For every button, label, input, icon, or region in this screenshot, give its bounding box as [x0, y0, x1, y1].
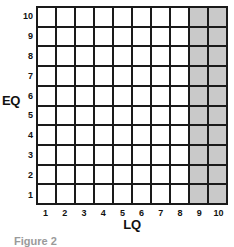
matrix-cell[interactable] [152, 67, 171, 85]
matrix-cell[interactable] [171, 185, 190, 203]
matrix-cell[interactable] [38, 87, 57, 105]
matrix-cell[interactable] [95, 47, 114, 65]
matrix-cell[interactable] [38, 166, 57, 184]
matrix-cell[interactable] [57, 126, 76, 144]
matrix-cell-shaded[interactable] [190, 67, 209, 85]
matrix-cell-shaded[interactable] [190, 8, 209, 26]
matrix-cell[interactable] [76, 146, 95, 164]
matrix-cell[interactable] [114, 8, 133, 26]
matrix-cell[interactable] [152, 146, 171, 164]
matrix-cell[interactable] [38, 185, 57, 203]
matrix-cell[interactable] [133, 67, 152, 85]
matrix-cell-shaded[interactable] [209, 146, 226, 164]
matrix-cell[interactable] [152, 28, 171, 46]
matrix-cell[interactable] [152, 107, 171, 125]
matrix-cell[interactable] [152, 185, 171, 203]
matrix-cell[interactable] [114, 47, 133, 65]
matrix-cell[interactable] [114, 28, 133, 46]
matrix-cell-shaded[interactable] [209, 87, 226, 105]
matrix-cell[interactable] [76, 87, 95, 105]
matrix-cell[interactable] [152, 47, 171, 65]
matrix-cell-shaded[interactable] [209, 8, 226, 26]
matrix-cell[interactable] [171, 28, 190, 46]
matrix-cell[interactable] [171, 47, 190, 65]
matrix-cell[interactable] [57, 47, 76, 65]
matrix-cell[interactable] [76, 107, 95, 125]
matrix-cell[interactable] [95, 185, 114, 203]
matrix-cell[interactable] [57, 185, 76, 203]
matrix-cell[interactable] [95, 87, 114, 105]
matrix-cell-shaded[interactable] [190, 47, 209, 65]
matrix-cell[interactable] [76, 67, 95, 85]
matrix-cell[interactable] [57, 146, 76, 164]
matrix-cell[interactable] [133, 126, 152, 144]
matrix-cell[interactable] [152, 8, 171, 26]
matrix-cell[interactable] [171, 107, 190, 125]
matrix-cell-shaded[interactable] [190, 126, 209, 144]
matrix-cell[interactable] [133, 107, 152, 125]
matrix-cell[interactable] [133, 87, 152, 105]
matrix-cell-shaded[interactable] [209, 28, 226, 46]
matrix-cell-shaded[interactable] [190, 107, 209, 125]
matrix-cell[interactable] [171, 146, 190, 164]
matrix-cell-shaded[interactable] [209, 185, 226, 203]
matrix-cell[interactable] [133, 8, 152, 26]
matrix-cell[interactable] [57, 166, 76, 184]
matrix-cell-shaded[interactable] [209, 107, 226, 125]
matrix-cell-shaded[interactable] [209, 126, 226, 144]
matrix-cell[interactable] [114, 146, 133, 164]
matrix-cell[interactable] [38, 126, 57, 144]
matrix-cell[interactable] [171, 166, 190, 184]
matrix-cell[interactable] [57, 87, 76, 105]
matrix-cell[interactable] [171, 87, 190, 105]
matrix-cell[interactable] [76, 28, 95, 46]
matrix-cell-shaded[interactable] [209, 166, 226, 184]
matrix-cell[interactable] [95, 126, 114, 144]
matrix-cell[interactable] [114, 107, 133, 125]
matrix-cell[interactable] [152, 126, 171, 144]
matrix-cell[interactable] [95, 28, 114, 46]
matrix-cell[interactable] [133, 185, 152, 203]
matrix-cell-shaded[interactable] [190, 146, 209, 164]
matrix-cell[interactable] [38, 107, 57, 125]
matrix-cell[interactable] [171, 8, 190, 26]
matrix-cell[interactable] [114, 126, 133, 144]
matrix-cell[interactable] [76, 126, 95, 144]
matrix-cell[interactable] [76, 166, 95, 184]
matrix-cell[interactable] [114, 67, 133, 85]
matrix-cell[interactable] [114, 185, 133, 203]
matrix-cell[interactable] [57, 8, 76, 26]
matrix-cell-shaded[interactable] [190, 87, 209, 105]
matrix-cell[interactable] [57, 107, 76, 125]
matrix-cell-shaded[interactable] [190, 166, 209, 184]
matrix-cell[interactable] [152, 166, 171, 184]
matrix-cell[interactable] [76, 8, 95, 26]
matrix-cell[interactable] [95, 107, 114, 125]
matrix-cell[interactable] [57, 28, 76, 46]
matrix-cell[interactable] [133, 28, 152, 46]
matrix-cell[interactable] [38, 47, 57, 65]
matrix-cell[interactable] [133, 166, 152, 184]
matrix-cell[interactable] [114, 166, 133, 184]
matrix-cell[interactable] [57, 67, 76, 85]
matrix-cell[interactable] [133, 146, 152, 164]
matrix-cell[interactable] [38, 28, 57, 46]
matrix-cell[interactable] [95, 8, 114, 26]
matrix-cell[interactable] [114, 87, 133, 105]
matrix-cell[interactable] [76, 185, 95, 203]
matrix-cell-shaded[interactable] [190, 185, 209, 203]
matrix-cell[interactable] [38, 67, 57, 85]
matrix-cell[interactable] [152, 87, 171, 105]
matrix-cell[interactable] [95, 67, 114, 85]
matrix-cell-shaded[interactable] [209, 67, 226, 85]
matrix-cell[interactable] [38, 146, 57, 164]
matrix-cell[interactable] [95, 146, 114, 164]
matrix-cell-shaded[interactable] [209, 47, 226, 65]
matrix-cell[interactable] [133, 47, 152, 65]
matrix-cell[interactable] [171, 67, 190, 85]
matrix-cell[interactable] [38, 8, 57, 26]
matrix-cell-shaded[interactable] [190, 28, 209, 46]
matrix-cell[interactable] [171, 126, 190, 144]
matrix-cell[interactable] [76, 47, 95, 65]
matrix-cell[interactable] [95, 166, 114, 184]
